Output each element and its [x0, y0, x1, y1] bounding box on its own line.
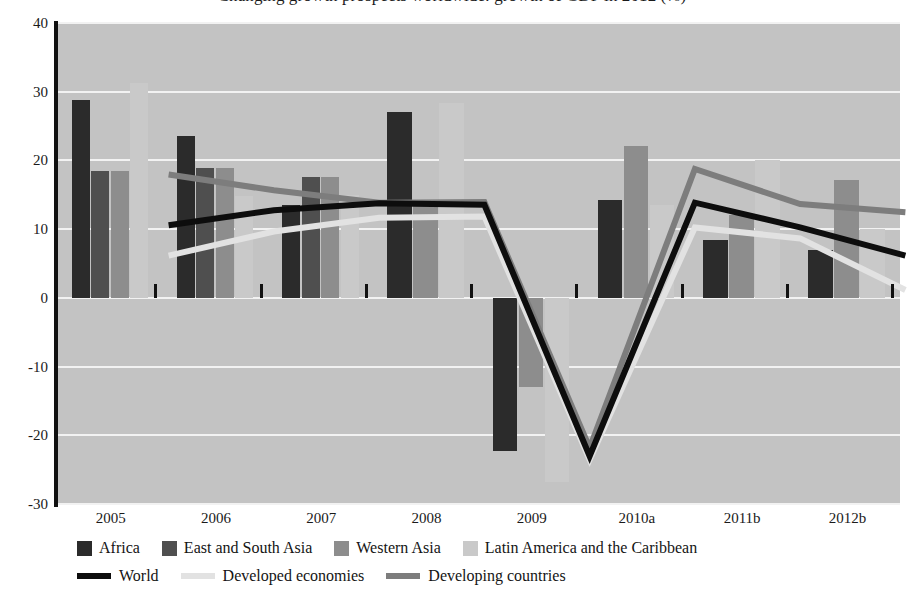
x-tick-mark: [786, 284, 789, 298]
chart-legend: AfricaEast and South AsiaWestern AsiaLat…: [0, 534, 904, 590]
legend-item[interactable]: East and South Asia: [162, 540, 312, 556]
x-tick-mark: [891, 284, 894, 298]
legend-line-icon: [77, 573, 111, 579]
x-tick-label: 2005: [66, 510, 156, 526]
x-tick-label: 2008: [381, 510, 471, 526]
legend-label: Africa: [99, 540, 140, 556]
x-tick-label: 2011b: [697, 510, 787, 526]
legend-row-bars: AfricaEast and South AsiaWestern AsiaLat…: [0, 534, 904, 562]
y-tick-label: 20: [2, 153, 48, 168]
y-tick-label: 10: [2, 222, 48, 237]
x-tick-mark: [154, 284, 157, 298]
y-tick-label: 30: [2, 85, 48, 100]
legend-item[interactable]: Western Asia: [334, 540, 440, 556]
legend-swatch-icon: [463, 541, 478, 556]
bar: [91, 171, 109, 298]
x-tick-mark: [470, 284, 473, 298]
y-axis-line: [54, 21, 58, 507]
legend-item[interactable]: Developing countries: [386, 568, 565, 584]
x-tick-label: 2007: [276, 510, 366, 526]
x-tick-label: 2009: [487, 510, 577, 526]
lines-layer: [116, 46, 911, 527]
x-tick-label: 2006: [171, 510, 261, 526]
legend-item[interactable]: World: [77, 568, 159, 584]
legend-row-lines: WorldDeveloped economiesDeveloping count…: [0, 562, 904, 590]
y-tick-label: 40: [2, 16, 48, 31]
legend-line-icon: [181, 573, 215, 579]
legend-item[interactable]: Africa: [77, 540, 140, 556]
legend-label: Developing countries: [428, 568, 565, 584]
legend-label: Western Asia: [356, 540, 440, 556]
x-tick-mark: [575, 284, 578, 298]
legend-label: East and South Asia: [184, 540, 312, 556]
y-tick-label: 0: [2, 291, 48, 306]
legend-swatch-icon: [334, 541, 349, 556]
plot-area: [58, 23, 900, 504]
legend-label: World: [119, 568, 159, 584]
x-tick-label: 2012b: [802, 510, 892, 526]
x-tick-mark: [365, 284, 368, 298]
x-tick-label: 2010a: [592, 510, 682, 526]
legend-item[interactable]: Latin America and the Caribbean: [463, 540, 697, 556]
y-tick-label: -30: [2, 497, 48, 512]
legend-label: Latin America and the Caribbean: [485, 540, 697, 556]
x-tick-mark: [260, 284, 263, 298]
legend-swatch-icon: [162, 541, 177, 556]
chart-title: Changing growth prospects worldwide: gro…: [0, 0, 904, 6]
y-tick-label: -20: [2, 428, 48, 443]
bar: [72, 100, 90, 298]
y-tick-label: -10: [2, 360, 48, 375]
legend-swatch-icon: [77, 541, 92, 556]
legend-line-icon: [386, 573, 420, 579]
legend-item[interactable]: Developed economies: [181, 568, 365, 584]
legend-label: Developed economies: [223, 568, 365, 584]
gridline: [58, 22, 900, 24]
x-tick-mark: [681, 284, 684, 298]
